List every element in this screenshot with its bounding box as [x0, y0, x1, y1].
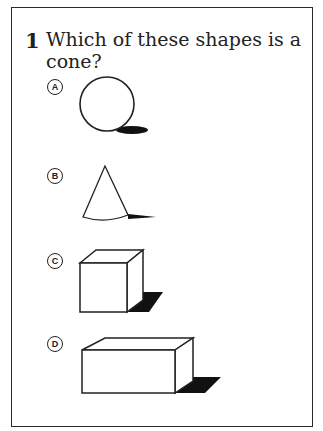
cube-icon[interactable]	[80, 248, 170, 318]
question-number: 1	[25, 28, 40, 53]
rectangular-prism-icon[interactable]	[80, 335, 225, 397]
sphere-icon[interactable]	[80, 78, 150, 138]
cone-icon[interactable]	[80, 166, 160, 226]
option-b-bubble[interactable]: B	[47, 168, 63, 184]
option-d-bubble[interactable]: D	[47, 336, 63, 352]
option-c-bubble[interactable]: C	[47, 253, 63, 269]
question-text: Which of these shapes is a cone?	[46, 28, 306, 72]
option-a-bubble[interactable]: A	[47, 79, 63, 95]
